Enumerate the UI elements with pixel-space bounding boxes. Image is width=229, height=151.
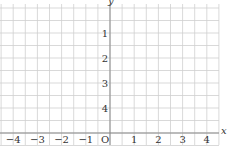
x-tick-label: O <box>101 134 109 145</box>
y-tick-label: 1 <box>102 28 108 39</box>
x-tick-label: −3 <box>30 134 45 145</box>
x-tick-label: 1 <box>131 134 137 145</box>
x-tick-label: −1 <box>78 134 93 145</box>
x-tick-label: 2 <box>155 134 161 145</box>
x-tick-label: −2 <box>54 134 69 145</box>
x-tick-label: 4 <box>204 134 210 145</box>
x-tick-label: −4 <box>6 134 21 145</box>
y-axis-label: y <box>107 0 114 6</box>
coordinate-plane: x y −4−3−2−1O1234 4321 <box>0 0 229 151</box>
x-tick-labels: −4−3−2−1O1234 <box>6 134 210 145</box>
x-axis-label: x <box>221 125 227 136</box>
y-tick-label: 2 <box>102 53 108 64</box>
x-tick-label: 3 <box>179 134 185 145</box>
y-tick-label: 4 <box>102 103 108 114</box>
y-tick-label: 3 <box>102 78 108 89</box>
